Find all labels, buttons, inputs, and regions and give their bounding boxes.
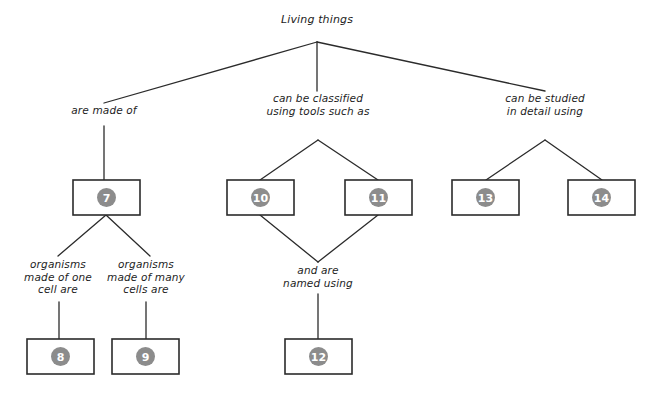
node-number-label: 14 [594, 192, 610, 205]
sub-label-organisms-one-cell: organisms made of one cell are [24, 258, 92, 296]
node-number-label: 13 [478, 192, 493, 205]
connector-right-to-box14 [545, 140, 602, 180]
sub-label-line-2: made of one [24, 271, 92, 284]
node-box-13[interactable]: 13 [452, 180, 519, 215]
connector-box7-to-subright [106, 215, 150, 256]
connector-root-to-right [317, 42, 545, 91]
sub-label-line-3: cells are [107, 283, 185, 296]
sub-label-line-2: named using [283, 277, 353, 290]
branch-label-are-made-of: are made of [71, 104, 136, 117]
node-number-label: 7 [103, 192, 111, 205]
connector-middle-to-box11 [318, 140, 378, 180]
node-box-10[interactable]: 10 [227, 180, 294, 215]
node-box-11[interactable]: 11 [345, 180, 412, 215]
node-box-12[interactable]: 12 [285, 339, 352, 374]
branch-label-line-2: using tools such as [266, 105, 369, 118]
node-box-7[interactable]: 7 [73, 180, 140, 215]
branch-label-can-be-classified: can be classified using tools such as [266, 92, 369, 117]
connector-box11-to-join [318, 215, 378, 262]
sub-label-organisms-many-cells: organisms made of many cells are [107, 258, 185, 296]
concept-map-diagram: 7891011121314 Living things are made of … [0, 0, 654, 401]
sub-label-line-2: made of many [107, 271, 185, 284]
node-box-8[interactable]: 8 [27, 339, 94, 374]
connector-box7-to-subleft [58, 215, 106, 256]
root-label: Living things [281, 14, 353, 27]
node-box-14[interactable]: 14 [568, 180, 635, 215]
diagram-canvas: 7891011121314 [0, 0, 654, 401]
branch-label-line-1: can be studied [505, 92, 585, 105]
connector-box10-to-join [260, 215, 318, 262]
node-number-label: 8 [57, 351, 65, 364]
node-number-label: 10 [253, 192, 269, 205]
node-number-label: 9 [142, 351, 150, 364]
connector-middle-to-box10 [260, 140, 318, 180]
node-box-9[interactable]: 9 [112, 339, 179, 374]
sub-label-line-3: cell are [24, 283, 92, 296]
node-number-label: 11 [371, 192, 386, 205]
sub-label-line-1: organisms [107, 258, 185, 271]
connector-right-to-box13 [486, 140, 545, 180]
sub-label-and-are-named-using: and are named using [283, 264, 353, 289]
branch-label-can-be-studied: can be studied in detail using [505, 92, 585, 117]
branch-label-line-2: in detail using [505, 105, 585, 118]
sub-label-line-1: and are [283, 264, 353, 277]
node-number-label: 12 [311, 351, 326, 364]
branch-label-line-1: can be classified [266, 92, 369, 105]
sub-label-line-1: organisms [24, 258, 92, 271]
